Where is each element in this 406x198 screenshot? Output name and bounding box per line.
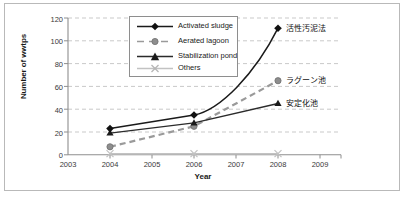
- chart-legend: Activated sludge Aerated lagoon Stabiliz…: [129, 16, 238, 77]
- legend-item-others[interactable]: Others: [130, 61, 239, 76]
- legend-item-activated-sludge[interactable]: Activated sludge: [130, 19, 239, 34]
- legend-swatch-activated-sludge: [135, 19, 175, 34]
- legend-label-activated-sludge: Activated sludge: [178, 21, 233, 30]
- annotation-aerated-lagoon: ラグーン池: [286, 74, 326, 85]
- annotation-activated-sludge: 活性汚泥法: [286, 22, 326, 33]
- chart-frame: Number of wwtps Year 120 100 80 60 40 20…: [4, 3, 400, 191]
- legend-label-stabilization-pond: Stabilization pond: [178, 51, 237, 60]
- legend-swatch-aerated-lagoon: [135, 34, 175, 49]
- legend-label-others: Others: [178, 63, 201, 72]
- legend-item-aerated-lagoon[interactable]: Aerated lagoon: [130, 34, 239, 49]
- annotation-stabilization-pond: 安定化池: [286, 97, 318, 108]
- legend-swatch-others: [135, 61, 175, 76]
- legend-label-aerated-lagoon: Aerated lagoon: [178, 36, 229, 45]
